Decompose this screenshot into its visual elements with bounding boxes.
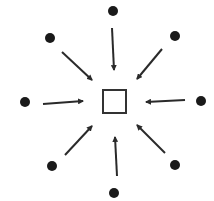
arrow-left (43, 101, 83, 104)
arrow-bottom-right (137, 125, 165, 153)
radial-convergence-diagram (0, 0, 214, 201)
arrow-bottom-left (65, 126, 92, 155)
node-top (108, 6, 118, 16)
arrow-top (112, 28, 114, 70)
node-left (20, 97, 30, 107)
node-top-left (45, 33, 55, 43)
arrow-bottom (115, 137, 117, 176)
arrow-top-left (62, 52, 92, 80)
arrow-right (146, 100, 185, 102)
node-right (196, 96, 206, 106)
node-bottom (109, 188, 119, 198)
arrow-top-right (137, 49, 162, 79)
node-bottom-left (47, 161, 57, 171)
center-square (103, 90, 126, 113)
node-top-right (170, 31, 180, 41)
node-bottom-right (170, 160, 180, 170)
diagram-canvas (0, 0, 214, 201)
